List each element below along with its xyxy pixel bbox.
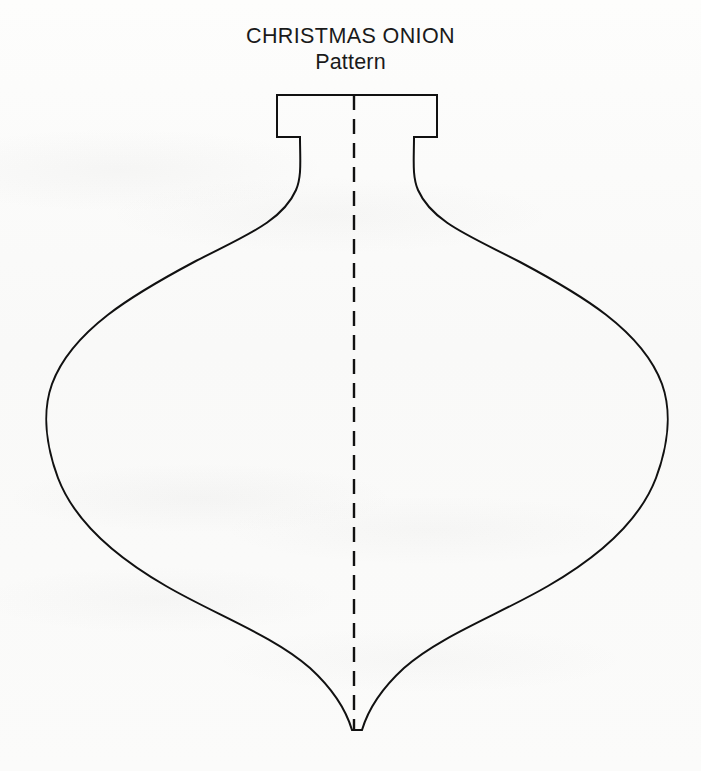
- pattern-page: CHRISTMAS ONION Pattern: [0, 0, 701, 771]
- ornament-outline-path: [46, 95, 667, 730]
- ornament-pattern-drawing: [0, 0, 701, 771]
